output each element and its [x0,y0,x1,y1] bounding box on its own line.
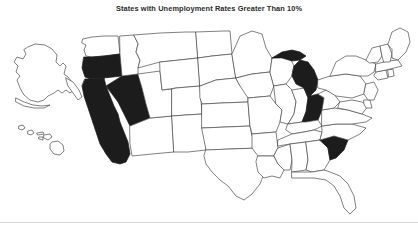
state-minnesota [232,31,272,78]
state-oklahoma [202,126,258,150]
bottom-divider [0,222,418,223]
state-new-mexico [172,114,206,152]
state-wyoming [160,58,200,90]
state-hawaii-maui [44,134,52,140]
state-delaware [364,100,372,108]
state-washington [82,36,120,57]
state-hawaii-oahu [28,130,34,135]
state-north-dakota [196,31,232,58]
state-hawaii-molokai [37,132,44,135]
state-arkansas [252,132,278,156]
state-hawaii-kauai [19,125,25,130]
state-texas [204,148,264,200]
state-colorado [172,86,202,116]
state-hawaii-lanai [39,137,43,140]
state-hawaii-big-island [50,141,64,155]
unemployment-choropleth-map: States with Unemployment Rates Greater T… [0,0,418,236]
state-oregon [82,54,122,79]
state-north-carolina [320,124,366,140]
state-kansas [202,102,250,128]
map-title: States with Unemployment Rates Greater T… [0,4,418,14]
state-alaska [14,44,74,102]
map-canvas [0,14,418,220]
state-florida [292,170,356,214]
state-new-jersey [364,82,378,100]
state-rhode-island [388,69,394,77]
state-alabama [290,142,308,172]
state-vermont [366,46,382,63]
